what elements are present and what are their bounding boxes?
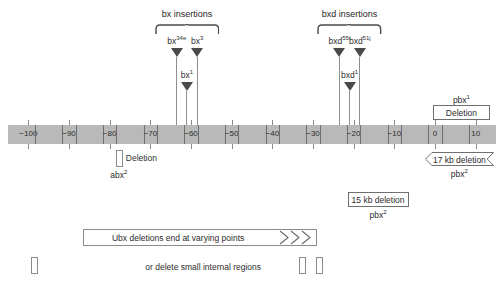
axis-tick — [76, 125, 77, 144]
axis-tick-label: −30 — [306, 129, 320, 138]
axis-tick-label: 10 — [471, 129, 480, 138]
axis-tick — [198, 125, 199, 144]
axis-tick-stub-down — [150, 144, 151, 149]
insertion-label-bxd1: bxd1 — [341, 71, 358, 80]
insertion-triangle-bxd1[interactable] — [344, 82, 356, 91]
axis-tick — [360, 125, 361, 144]
axis-tick-label: −90 — [62, 129, 76, 138]
insertion-stem-bxd51j — [359, 57, 360, 125]
axis-tick-stub-up — [272, 120, 273, 125]
deletion-allele-pbx2-15kb-deletion: pbx2 — [370, 210, 387, 220]
insertion-stem-bx1 — [186, 91, 187, 125]
axis-tick-stub-up — [354, 120, 355, 125]
axis-tick — [320, 125, 321, 144]
insertion-label-bxd55i: bxd55i — [329, 37, 351, 46]
axis-tick-label: −80 — [103, 129, 117, 138]
deletion-allele-abx2-deletion: abx2 — [110, 170, 127, 180]
insertion-stem-bx3 — [197, 57, 198, 125]
axis-tick — [157, 125, 158, 144]
ubx-internal-region-2[interactable] — [299, 257, 306, 274]
axis-tick-stub-down — [110, 144, 111, 149]
group-title-bxd-insertions: bxd insertions — [322, 9, 378, 19]
axis-tick-stub-up — [476, 120, 477, 125]
axis-tick-stub-up — [150, 120, 151, 125]
insertion-label-bx1: bx1 — [181, 71, 193, 80]
axis-tick-label: −50 — [225, 129, 239, 138]
axis-tick-stub-down — [232, 144, 233, 149]
brace-bxd-insertions — [317, 24, 382, 34]
axis-tick-label: −40 — [266, 129, 280, 138]
axis-tick-stub-down — [272, 144, 273, 149]
deletion-allele-pbx2-17kb-deletion: pbx2 — [451, 169, 468, 179]
deletion-text-abx2-deletion: Deletion — [126, 154, 157, 163]
insertion-label-bx34e: bx34e — [167, 37, 186, 46]
axis-tick — [442, 125, 443, 144]
axis-tick — [469, 125, 470, 144]
deletion-allele-pbx1-deletion: pbx1 — [453, 95, 470, 105]
axis-tick-stub-up — [313, 120, 314, 125]
axis-tick-stub-up — [191, 120, 192, 125]
axis-tick-stub-up — [232, 120, 233, 125]
deletion-text-pbx2-17kb-deletion: 17 kb deletion — [433, 155, 486, 165]
ubx-internal-region-3[interactable] — [316, 257, 323, 274]
brace-bx-insertions — [155, 24, 220, 34]
ubx-deletion-bar-label: Ubx deletions end at varying points — [112, 233, 244, 243]
axis-tick-stub-down — [28, 144, 29, 149]
axis-tick-stub-down — [313, 144, 314, 149]
axis-tick-label: −10 — [388, 129, 402, 138]
axis-tick-label: 0 — [433, 129, 437, 138]
axis-tick — [238, 125, 239, 144]
deletion-box-pbx1-deletion[interactable]: Deletion — [433, 105, 490, 120]
axis-tick — [401, 125, 402, 144]
insertion-triangle-bx34e[interactable] — [171, 48, 183, 57]
ubx-chevron-group — [279, 230, 313, 245]
axis-tick-stub-up — [394, 120, 395, 125]
axis-tick-label: −70 — [144, 129, 158, 138]
group-title-bx-insertions: bx insertions — [162, 9, 213, 19]
insertion-label-bx3: bx3 — [191, 37, 203, 46]
ubx-internal-region-1[interactable] — [31, 257, 38, 274]
axis-tick-stub-down — [394, 144, 395, 149]
axis-tick-stub-down — [476, 144, 477, 149]
insertion-triangle-bxd51j[interactable] — [354, 48, 366, 57]
insertion-triangle-bx3[interactable] — [191, 48, 203, 57]
axis-tick-stub-up — [435, 120, 436, 125]
axis-tick-stub-down — [69, 144, 70, 149]
axis-tick-stub-up — [110, 120, 111, 125]
insertion-stem-bxd1 — [349, 91, 350, 125]
ubx-internal-regions-label: or delete small internal regions — [145, 262, 261, 272]
axis-tick-stub-up — [28, 120, 29, 125]
insertion-stem-bxd55i — [339, 57, 340, 125]
deletion-narrowbox-abx2-deletion[interactable] — [116, 150, 123, 167]
axis-tick — [428, 125, 429, 144]
axis-tick-stub-down — [435, 144, 436, 149]
axis-tick — [279, 125, 280, 144]
insertion-triangle-bx1[interactable] — [181, 82, 193, 91]
axis-tick-stub-up — [69, 120, 70, 125]
axis-tick-stub-down — [354, 144, 355, 149]
insertion-label-bxd51j: bxd51j — [349, 37, 371, 46]
genomic-axis-bar — [8, 125, 496, 144]
insertion-triangle-bxd55i[interactable] — [333, 48, 345, 57]
deletion-box-pbx2-15kb-deletion[interactable]: 15 kb deletion — [348, 192, 409, 207]
axis-tick — [35, 125, 36, 144]
axis-tick-label: −20 — [347, 129, 361, 138]
axis-tick-stub-down — [191, 144, 192, 149]
insertion-stem-bx34e — [176, 57, 177, 125]
axis-tick — [116, 125, 117, 144]
axis-tick-label: −60 — [184, 129, 198, 138]
